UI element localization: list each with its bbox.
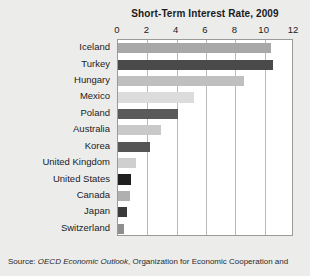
bar: [118, 174, 131, 184]
bar-row: [118, 76, 292, 86]
bar-row: [118, 191, 292, 201]
category-label: Australia: [0, 123, 114, 134]
category-label: Hungary: [0, 74, 114, 85]
bar-row: [118, 60, 292, 70]
bar-row: [118, 125, 292, 135]
x-tick-label: 8: [232, 24, 237, 35]
source-note: Source: OECD Economic Outlook, Organizat…: [8, 257, 308, 266]
category-label: Switzerland: [0, 222, 114, 233]
x-axis-tick-labels: 024681012: [0, 24, 310, 38]
bar: [118, 92, 194, 102]
bar-series: [118, 40, 292, 235]
x-tick-label: 2: [144, 24, 149, 35]
bar: [118, 191, 130, 201]
bar-row: [118, 207, 292, 217]
bar: [118, 158, 136, 168]
bar-row: [118, 224, 292, 234]
chart-figure: Short-Term Interest Rate, 2009 024681012…: [0, 0, 310, 276]
chart-title: Short-Term Interest Rate, 2009: [117, 8, 293, 19]
bar: [118, 76, 244, 86]
category-label: United Kingdom: [0, 156, 114, 167]
bar: [118, 43, 271, 53]
bar: [118, 207, 127, 217]
bar: [118, 125, 161, 135]
bar: [118, 60, 273, 70]
bar: [118, 224, 124, 234]
x-tick-label: 6: [202, 24, 207, 35]
x-tick-label: 0: [114, 24, 119, 35]
bar-row: [118, 158, 292, 168]
category-label: Turkey: [0, 58, 114, 69]
bar-row: [118, 43, 292, 53]
category-label: United States: [0, 173, 114, 184]
source-publication: OECD Economic Outlook: [38, 257, 128, 266]
bar: [118, 109, 178, 119]
category-label: Japan: [0, 205, 114, 216]
x-tick-label: 12: [288, 24, 299, 35]
plot-area: [117, 39, 293, 236]
bar-row: [118, 174, 292, 184]
category-labels: IcelandTurkeyHungaryMexicoPolandAustrali…: [0, 39, 114, 236]
bar-row: [118, 109, 292, 119]
x-tick-label: 4: [173, 24, 178, 35]
bar-row: [118, 92, 292, 102]
category-label: Poland: [0, 107, 114, 118]
category-label: Canada: [0, 189, 114, 200]
category-label: Mexico: [0, 90, 114, 101]
bar-row: [118, 142, 292, 152]
x-tick-label: 10: [258, 24, 269, 35]
bar: [118, 142, 150, 152]
category-label: Iceland: [0, 41, 114, 52]
category-label: Korea: [0, 140, 114, 151]
